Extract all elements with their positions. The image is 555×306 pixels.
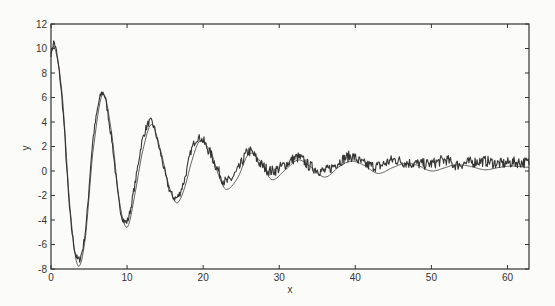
plot-frame <box>51 24 529 269</box>
y-tick-label: 6 <box>41 92 47 103</box>
series-layer <box>51 41 529 267</box>
y-tick-label: 12 <box>36 19 48 30</box>
x-axis-label: x <box>288 284 293 295</box>
axes: 0102030405060-8-6-4-2024681012 <box>36 19 529 284</box>
model-series-line <box>51 47 529 267</box>
x-tick-label: 60 <box>502 272 514 283</box>
y-tick-label: 0 <box>41 166 47 177</box>
x-tick-label: 20 <box>198 272 210 283</box>
x-tick-label: 10 <box>122 272 134 283</box>
x-tick-label: 50 <box>426 272 438 283</box>
y-tick-label: -8 <box>38 264 47 275</box>
y-tick-label: 2 <box>41 141 47 152</box>
y-tick-label: 4 <box>41 117 47 128</box>
y-tick-label: 10 <box>36 43 48 54</box>
x-tick-label: 30 <box>274 272 286 283</box>
y-tick-label: 8 <box>41 68 47 79</box>
y-tick-label: -6 <box>38 239 47 250</box>
y-axis-label: y <box>20 146 31 151</box>
measured-series-line <box>51 41 529 262</box>
x-tick-label: 40 <box>350 272 362 283</box>
y-tick-label: -2 <box>38 190 47 201</box>
chart: 0102030405060-8-6-4-2024681012 x y <box>0 0 555 306</box>
y-tick-label: -4 <box>38 215 47 226</box>
x-tick-label: 0 <box>48 272 54 283</box>
